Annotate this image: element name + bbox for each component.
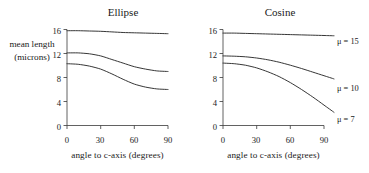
left-curves <box>67 31 168 90</box>
left-curve-mu-10 <box>67 53 168 72</box>
left-curve-mu-15 <box>67 31 168 34</box>
figure-root: mean length (microns) Ellipse 16 12 8 4 … <box>0 0 369 173</box>
right-curves <box>223 33 334 112</box>
right-curve-mu-10 <box>223 56 334 79</box>
right-curve-mu-15 <box>223 33 334 36</box>
right-axes <box>220 30 325 130</box>
left-curve-mu-7 <box>67 64 168 90</box>
plot-canvas <box>0 0 369 173</box>
right-curve-mu-7 <box>223 63 334 112</box>
left-axes <box>64 30 169 130</box>
